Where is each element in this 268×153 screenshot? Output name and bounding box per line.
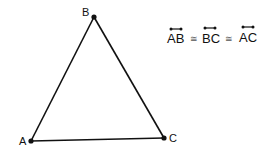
vertex-c-label: C bbox=[169, 132, 177, 144]
segment-ab-line-notation: AB bbox=[167, 28, 184, 47]
side-ab bbox=[31, 17, 94, 141]
side-bc bbox=[94, 17, 164, 138]
congruence-statement: AB ≅ BC ≅ AC bbox=[167, 26, 257, 47]
side-ac bbox=[31, 138, 164, 141]
segment-ab-label: AB bbox=[167, 31, 184, 46]
segment-bc-line-notation: BC bbox=[202, 27, 220, 47]
congruent-symbol-1: ≅ bbox=[190, 34, 198, 44]
congruent-symbol-2: ≅ bbox=[225, 34, 233, 44]
vertex-a-dot bbox=[28, 138, 33, 143]
vertex-b-label: B bbox=[82, 6, 89, 18]
segment-bc-label: BC bbox=[202, 31, 220, 46]
segment-ac-line-notation: AC bbox=[239, 26, 257, 46]
vertex-b-dot bbox=[91, 14, 96, 19]
triangle-diagram: A B C AB ≅ BC ≅ AC bbox=[0, 0, 268, 153]
vertex-c-dot bbox=[161, 135, 166, 140]
vertex-a-label: A bbox=[19, 135, 27, 147]
segment-ac-label: AC bbox=[239, 30, 257, 45]
